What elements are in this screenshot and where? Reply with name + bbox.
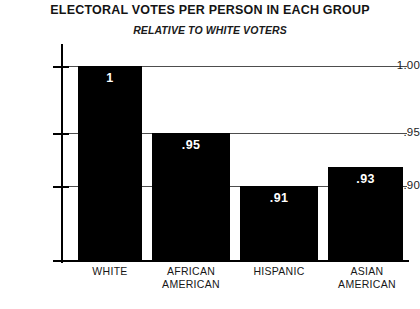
plot-area: 1.00 .95 .90 1 .95 .91 .93 WHITE AFRICAN…: [0, 0, 420, 309]
category-label-asian-american-line1: ASIAN: [324, 265, 410, 278]
bar-white: 1: [78, 66, 142, 260]
bar-value-african-american: .95: [152, 138, 230, 152]
bar-value-asian-american: .93: [328, 172, 403, 186]
category-label-african-american-line2: AMERICAN: [148, 278, 234, 291]
bar-hispanic: .91: [240, 186, 318, 260]
category-label-african-american: AFRICAN AMERICAN: [148, 265, 234, 291]
bar-value-hispanic: .91: [240, 191, 318, 205]
ytick-label-100: 1.00: [376, 59, 420, 71]
category-label-white: WHITE: [70, 265, 150, 278]
bar-asian-american: .93: [328, 167, 403, 260]
category-label-asian-american-line2: AMERICAN: [324, 278, 410, 291]
category-label-hispanic: HISPANIC: [236, 265, 322, 278]
bar-african-american: .95: [152, 133, 230, 260]
category-label-hispanic-line1: HISPANIC: [236, 265, 322, 278]
chart-figure: ELECTORAL VOTES PER PERSON IN EACH GROUP…: [0, 0, 420, 309]
x-axis-line: [53, 260, 409, 262]
category-label-white-line1: WHITE: [70, 265, 150, 278]
ytick-label-95: .95: [376, 126, 420, 138]
y-axis-line: [61, 44, 63, 263]
category-label-african-american-line1: AFRICAN: [148, 265, 234, 278]
bar-value-white: 1: [78, 71, 142, 85]
category-label-asian-american: ASIAN AMERICAN: [324, 265, 410, 291]
